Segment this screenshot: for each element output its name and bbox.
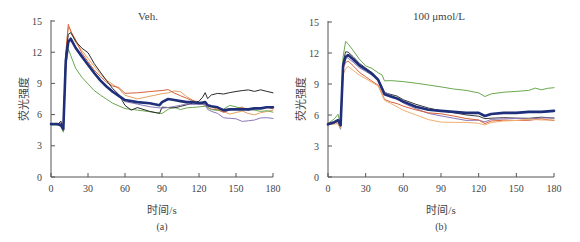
x-tick-label: 30 bbox=[83, 183, 93, 194]
series-line-trace-black bbox=[328, 52, 554, 127]
series-line-trace-orange bbox=[51, 27, 273, 130]
x-tick-label: 120 bbox=[471, 183, 486, 194]
y-tick-label: 6 bbox=[314, 110, 319, 121]
chart-panel-a: Veh. 荧光强度 036912150306090120150180 时间/s … bbox=[17, 10, 281, 233]
series-line-mean bbox=[51, 39, 273, 130]
y-tick-label: 3 bbox=[314, 141, 319, 152]
x-tick-label: 90 bbox=[436, 183, 446, 194]
x-tick-label: 150 bbox=[229, 183, 244, 194]
y-tick-label: 12 bbox=[32, 47, 42, 58]
x-tick-label: 60 bbox=[398, 183, 408, 194]
panel-label-b: (b) bbox=[435, 221, 447, 233]
x-tick-label: 60 bbox=[120, 183, 130, 194]
y-axis-title-a: 荧光强度 bbox=[17, 77, 30, 121]
figure: Veh. 荧光强度 036912150306090120150180 时间/s … bbox=[0, 0, 580, 242]
y-tick-label: 15 bbox=[32, 16, 42, 27]
y-axis-title-b: 荧光强度 bbox=[294, 77, 307, 121]
series-line-trace-red bbox=[51, 24, 273, 130]
y-tick-label: 6 bbox=[37, 109, 42, 120]
series-lines-b bbox=[328, 42, 554, 130]
series-line-mean bbox=[328, 55, 554, 125]
x-axis-title-a: 时间/s bbox=[147, 204, 176, 216]
y-tick-label: 9 bbox=[37, 78, 42, 89]
panel-label-a: (a) bbox=[156, 221, 167, 233]
y-tick-label: 12 bbox=[309, 48, 319, 59]
x-tick-label: 120 bbox=[192, 183, 207, 194]
x-tick-label: 180 bbox=[547, 183, 562, 194]
panel-title-a: Veh. bbox=[138, 10, 158, 22]
x-tick-label: 180 bbox=[266, 183, 281, 194]
panel-title-b: 100 μmol/L bbox=[413, 10, 465, 22]
y-tick-label: 0 bbox=[37, 172, 42, 183]
y-tick-label: 0 bbox=[314, 172, 319, 183]
x-tick-label: 150 bbox=[509, 183, 524, 194]
x-tick-label: 90 bbox=[157, 183, 167, 194]
x-tick-label: 0 bbox=[326, 183, 331, 194]
x-tick-label: 0 bbox=[49, 183, 54, 194]
y-tick-label: 3 bbox=[37, 140, 42, 151]
y-tick-label: 15 bbox=[309, 17, 319, 28]
y-tick-label: 9 bbox=[314, 79, 319, 90]
x-axis-title-b: 时间/s bbox=[426, 204, 455, 216]
series-line-trace-black bbox=[51, 33, 273, 130]
x-tick-label: 30 bbox=[361, 183, 371, 194]
series-lines-a bbox=[51, 24, 273, 132]
chart-panel-b: 100 μmol/L 荧光强度 036912150306090120150180… bbox=[294, 10, 562, 233]
